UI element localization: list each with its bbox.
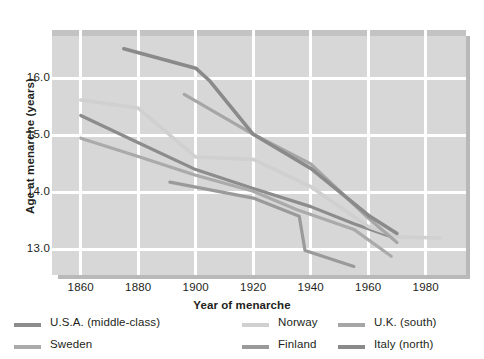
x-tick-label: 1960 [341,281,395,293]
y-tick-label: 14.0 [4,185,50,197]
legend-swatch-sweden [14,345,41,349]
legend-swatch-u-s-a-middle-class [14,323,41,327]
x-tick-label: 1880 [111,281,165,293]
x-tick-label: 1920 [226,281,280,293]
legend-swatch-u-k-south [338,323,365,327]
x-tick-label: 1980 [399,281,453,293]
chart-legend: U.S.A. (middle-class)NorwayU.K. (south)S… [0,316,484,359]
y-tick-label: 13.0 [4,242,50,254]
legend-swatch-finland [242,345,269,349]
x-tick-label: 1940 [284,281,338,293]
y-tick-label: 15.0 [4,128,50,140]
legend-swatch-norway [242,323,269,327]
chart-figure: Age at menarche (years) 13.014.015.016.0… [0,0,484,359]
legend-label-u-k-south: U.K. (south) [374,316,437,328]
series-line-norway [81,100,440,238]
series-line-u-s-a-middle-class [81,115,392,236]
legend-label-italy-north: Italy (north) [374,338,433,350]
legend-label-u-s-a-middle-class: U.S.A. (middle-class) [50,316,160,328]
series-line-u-k-south [184,94,397,242]
legend-label-finland: Finland [278,338,316,350]
x-tick-label: 1900 [169,281,223,293]
x-axis-title: Year of menarche [0,299,484,311]
x-tick-label: 1860 [54,281,108,293]
series-line-italy-north [124,49,397,234]
series-layer [52,30,466,275]
legend-label-norway: Norway [278,316,318,328]
legend-label-sweden: Sweden [50,338,92,350]
y-tick-label: 16.0 [4,71,50,83]
legend-swatch-italy-north [338,345,365,349]
plot-panel [52,30,466,275]
